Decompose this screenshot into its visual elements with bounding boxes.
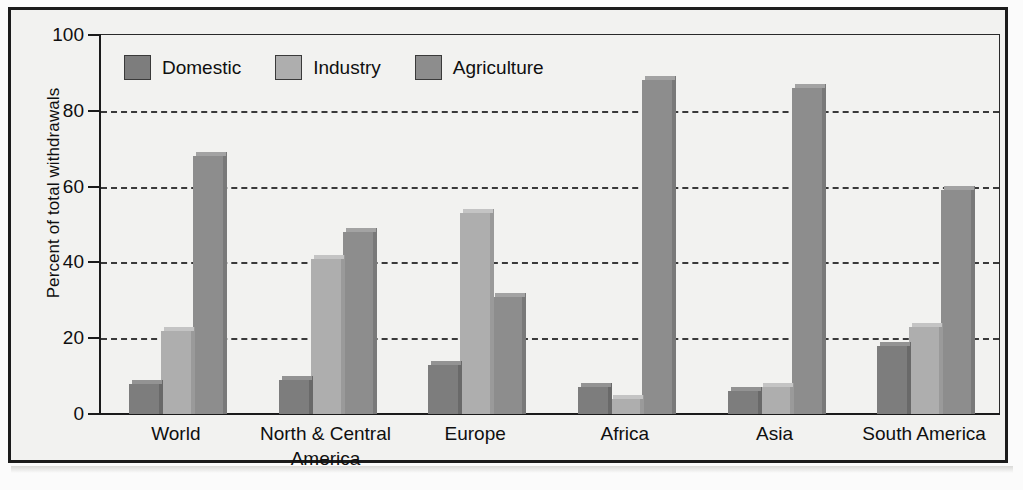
bar-side-face — [223, 152, 227, 414]
bar-face — [193, 156, 223, 414]
bar-side-face — [672, 76, 676, 414]
bar-face — [161, 331, 191, 414]
y-tick-label: 0 — [22, 403, 84, 425]
bar[interactable] — [610, 399, 640, 414]
bar-face — [792, 88, 822, 414]
bar-side-face — [341, 255, 345, 414]
x-axis-labels: WorldNorth & CentralAmericaEuropeAfricaA… — [101, 421, 999, 481]
chart-legend: DomesticIndustryAgriculture — [124, 55, 544, 80]
bar[interactable] — [941, 190, 971, 414]
bar-face — [941, 190, 971, 414]
bar-side-face — [907, 342, 911, 414]
bar[interactable] — [279, 380, 309, 414]
legend-swatch-icon — [124, 55, 151, 80]
bar[interactable] — [492, 297, 522, 414]
bar-side-face — [309, 376, 313, 414]
bar-side-face — [458, 361, 462, 414]
y-tick-mark — [88, 413, 100, 415]
bar[interactable] — [642, 80, 672, 414]
bar[interactable] — [460, 213, 490, 414]
bar[interactable] — [311, 259, 341, 414]
bar-face — [877, 346, 907, 414]
y-tick-mark — [88, 261, 100, 263]
bar-face — [728, 391, 758, 414]
bar-face — [129, 384, 159, 414]
bar-side-face — [522, 293, 526, 414]
y-tick-mark — [88, 186, 100, 188]
bar-side-face — [758, 387, 762, 414]
bar[interactable] — [877, 346, 907, 414]
bar-side-face — [159, 380, 163, 414]
bar-face — [343, 232, 373, 414]
bars-layer — [101, 35, 999, 414]
y-tick-label: 100 — [22, 24, 84, 46]
bar[interactable] — [909, 327, 939, 414]
bar[interactable] — [760, 387, 790, 414]
y-tick-label: 20 — [22, 327, 84, 349]
x-axis-label: South America — [834, 421, 1014, 446]
bar[interactable] — [428, 365, 458, 414]
bar-side-face — [971, 186, 975, 414]
bar[interactable] — [343, 232, 373, 414]
legend-label: Domestic — [162, 57, 241, 79]
bar-face — [460, 213, 490, 414]
chart-screenshot: Percent of total withdrawals 10080604020… — [0, 0, 1023, 490]
bar-face — [279, 380, 309, 414]
bar-face — [311, 259, 341, 414]
figure-area: Percent of total withdrawals 10080604020… — [14, 13, 1002, 457]
bar-side-face — [790, 383, 794, 414]
bar-group — [279, 35, 373, 414]
bar-side-face — [373, 228, 377, 414]
bar-face — [578, 387, 608, 414]
y-tick-mark — [88, 110, 100, 112]
bar-group — [728, 35, 822, 414]
bar[interactable] — [129, 384, 159, 414]
legend-item[interactable]: Agriculture — [415, 55, 544, 80]
bar-group — [428, 35, 522, 414]
y-tick-mark — [88, 34, 100, 36]
legend-label: Agriculture — [453, 57, 544, 79]
bar-face — [909, 327, 939, 414]
legend-swatch-icon — [275, 55, 302, 80]
y-tick-label: 80 — [22, 100, 84, 122]
y-tick-label: 40 — [22, 251, 84, 273]
legend-item[interactable]: Industry — [275, 55, 381, 80]
bar-side-face — [490, 209, 494, 414]
y-tick-label: 60 — [22, 176, 84, 198]
x-axis-label-line: America — [236, 446, 416, 471]
bar-group — [578, 35, 672, 414]
legend-label: Industry — [313, 57, 381, 79]
bar-face — [428, 365, 458, 414]
bar-group — [877, 35, 971, 414]
x-axis-label-line: South America — [834, 421, 1014, 446]
bar-side-face — [822, 84, 826, 414]
bar-group — [129, 35, 223, 414]
bar-side-face — [608, 383, 612, 414]
bar-side-face — [939, 323, 943, 414]
legend-item[interactable]: Domestic — [124, 55, 241, 80]
bar-face — [760, 387, 790, 414]
legend-swatch-icon — [415, 55, 442, 80]
bar[interactable] — [578, 387, 608, 414]
bar-side-face — [191, 327, 195, 414]
bar-face — [642, 80, 672, 414]
bar-face — [610, 399, 640, 414]
y-tick-mark — [88, 337, 100, 339]
bar[interactable] — [728, 391, 758, 414]
bar[interactable] — [193, 156, 223, 414]
bar[interactable] — [161, 331, 191, 414]
bar-face — [492, 297, 522, 414]
bar[interactable] — [792, 88, 822, 414]
